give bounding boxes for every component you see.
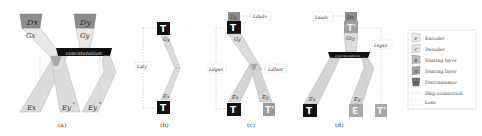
t-top-label: T	[230, 23, 237, 33]
legend-label: Loss	[425, 100, 436, 105]
dy-label: Dy	[79, 18, 91, 27]
t-prime-top-label: T'	[347, 23, 356, 33]
legend: E Encoder C Decoder E Sharing layer G Sh…	[408, 30, 476, 109]
legend-loss-icon	[411, 99, 422, 105]
eyc-label: Ey	[61, 104, 72, 112]
gty-label: Gty	[346, 35, 355, 42]
concatenation-label: concatenation	[335, 54, 361, 58]
dx-label: Dx	[26, 18, 38, 27]
panel-d: Ds T' Gty concatenation Ex Ey T E T' Lsa…	[303, 12, 392, 128]
t-bottom-label: T	[230, 105, 237, 115]
loss-sadv-label: Lsadv	[314, 15, 329, 20]
t-bottom-label: T	[160, 103, 167, 113]
legend-label: Encoder	[425, 36, 445, 41]
panel-c: Dy T Gy Ex Ey T T' Ldadv Ldgsn Ldfeat (c…	[207, 11, 286, 128]
svg-text:E: E	[414, 36, 418, 41]
loss-dfeat-label: Ldfeat	[267, 67, 283, 72]
loss-sgsn-label: Lsgsn	[373, 43, 387, 48]
caption-c: (c)	[247, 121, 255, 128]
caption-d: (d)	[335, 121, 344, 128]
t-right-label: T'	[377, 106, 386, 116]
legend-label: Skip connection	[425, 91, 462, 96]
eys-sup: s	[99, 100, 101, 105]
svg-text:C: C	[415, 47, 418, 52]
t-left-label: T	[306, 106, 313, 116]
eys-label: Ey	[87, 104, 98, 112]
ey-label: Ey	[261, 94, 269, 101]
panel-a: Dx Gx Dy Gy concatenation Ex Ey c Ey s (…	[20, 14, 116, 128]
ex-label: Ex	[231, 94, 239, 100]
figure-canvas: Dx Gx Dy Gy concatenation Ex Ey c Ey s (…	[0, 0, 482, 136]
t-top-label: T	[160, 24, 167, 34]
t-prime-label: T'	[265, 105, 274, 115]
legend-label: Decoder	[425, 47, 445, 52]
gy-label: Gy	[234, 36, 241, 43]
ex-label: Ex	[308, 96, 316, 102]
legend-label: Discriminator	[425, 80, 458, 85]
e-mid-label: E	[352, 106, 358, 116]
ex-label: Ex	[162, 93, 170, 99]
gy-label: Gy	[163, 36, 170, 43]
panel-b: T T Gy Ex Lgly (b)	[135, 22, 180, 128]
ey-label: Ey	[353, 96, 361, 103]
concatenation-label: concatenation	[66, 50, 103, 56]
loss-gly-label: Lgly	[136, 64, 147, 69]
loss-dgsn-label: Ldgsn	[208, 67, 223, 72]
caption-b: (b)	[160, 121, 169, 128]
gy-label: Gy	[80, 32, 91, 40]
ds-label: Ds	[346, 14, 354, 20]
gx-label: Gx	[26, 32, 36, 40]
svg-text:E: E	[414, 58, 418, 63]
loss-dadv-label: Ldadv	[252, 14, 267, 19]
ex-label: Ex	[26, 104, 36, 112]
dy-label: Dy	[229, 14, 237, 21]
caption-a: (a)	[58, 121, 66, 128]
